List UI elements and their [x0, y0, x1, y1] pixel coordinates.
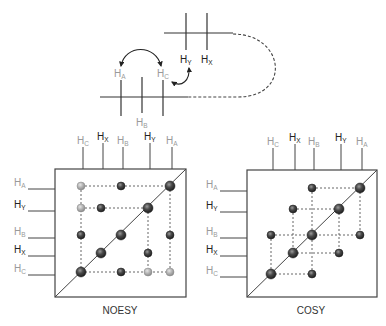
cosy-peak-hb-ha [308, 184, 316, 192]
cosy-left-label-hb: HB [206, 226, 218, 238]
noesy-peak-hy-hx [144, 249, 152, 257]
cosy-peak-hy-hy [334, 204, 344, 214]
cosy-peak-hc-hb [267, 231, 275, 239]
noesy-left-label-hx: HX [14, 244, 26, 256]
noesy-peak-ha-ha [165, 181, 175, 191]
noesy-peak-hx-hx [96, 248, 106, 258]
nmr-diagram: HY HX HA HC HB HCHXHBHYHAHAHYHBHXHCNOESY… [0, 0, 386, 326]
noesy-top-label-hx: HX [97, 131, 109, 143]
top-fragment: HY HX [164, 13, 233, 66]
cosy-peak-hc-hc [266, 269, 276, 279]
cosy-peak-ha-hb [356, 231, 364, 239]
noesy-top-label-hc: HC [77, 135, 89, 147]
noesy-peak-hb-hc [117, 268, 125, 276]
dashed-connector [188, 34, 275, 97]
noesy-left-label-hb: HB [14, 226, 26, 238]
cosy-top-label-hx: HX [289, 132, 301, 144]
noesy-peak-hy-hy [143, 203, 153, 213]
cosy-title: COSY [297, 305, 326, 316]
label-hc-mol: HC [157, 68, 169, 80]
noesy-peak-hc-hc [76, 267, 86, 277]
noesy-top-label-hy: HY [144, 131, 156, 143]
noesy-left-label-hy: HY [14, 199, 26, 211]
cosy-left-label-ha: HA [206, 179, 218, 191]
cosy-left-label-hy: HY [206, 200, 218, 212]
noesy-title: NOESY [102, 305, 137, 316]
cosy-top-label-hy: HY [335, 132, 347, 144]
noesy-top-label-hb: HB [117, 135, 129, 147]
noesy-peak-hb-ha [117, 182, 125, 190]
bottom-fragment: HA HC HB [100, 68, 188, 129]
noesy-peak-hy-hc [144, 268, 152, 276]
cosy-left-label-hx: HX [206, 244, 218, 256]
cosy-peak-hx-hx [288, 248, 298, 258]
cosy-peak-hb-hc [308, 270, 316, 278]
noesy-peak-ha-hb [166, 231, 174, 239]
label-hx-top: HX [201, 54, 213, 66]
noesy-top-label-ha: HA [166, 135, 178, 147]
noesy-spectrum: HCHXHBHYHAHAHYHBHXHCNOESY [14, 131, 186, 316]
arrow-hc-hy [172, 68, 189, 84]
cosy-left-label-hc: HC [206, 265, 218, 277]
spectra: HCHXHBHYHAHAHYHBHXHCNOESYHCHXHBHYHAHAHYH… [14, 131, 377, 316]
cosy-top-label-hc: HC [267, 136, 279, 148]
cosy-peak-hb-hb [307, 230, 317, 240]
noesy-peak-ha-hc [166, 268, 174, 276]
label-ha-mol: HA [114, 68, 126, 80]
noesy-peak-hb-hb [116, 230, 126, 240]
noesy-left-label-hc: HC [14, 263, 26, 275]
cosy-top-label-ha: HA [356, 136, 368, 148]
cosy-peak-ha-ha [355, 183, 365, 193]
molecule: HY HX HA HC HB [100, 13, 275, 129]
label-hb-mol: HB [136, 117, 148, 129]
noesy-peak-hc-hb [77, 231, 85, 239]
cosy-top-label-hb: HB [308, 136, 320, 148]
cosy-peak-hy-hx [335, 249, 343, 257]
label-hy-top: HY [180, 54, 192, 66]
noesy-peak-hx-hy [97, 204, 105, 212]
noesy-peak-hc-ha [77, 182, 85, 190]
noesy-left-label-ha: HA [14, 177, 26, 189]
noesy-peak-hc-hy [77, 204, 85, 212]
cosy-peak-hx-hy [289, 205, 297, 213]
arrow-ha-hc [121, 50, 161, 67]
cosy-spectrum: HCHXHBHYHAHAHYHBHXHCCOSY [206, 132, 377, 316]
